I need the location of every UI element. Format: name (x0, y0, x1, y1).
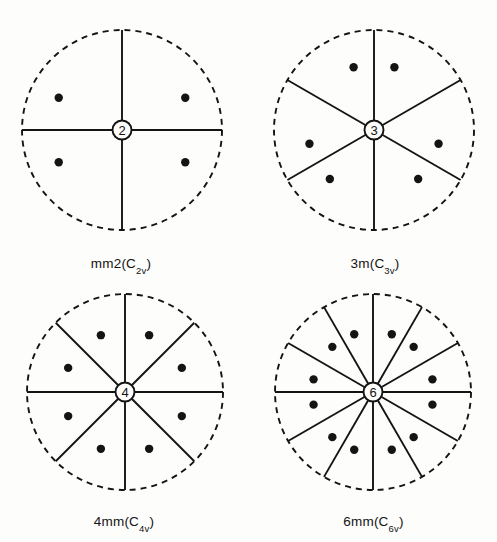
pole-dot (328, 433, 336, 441)
rotation-order-label: 6 (369, 385, 376, 400)
mirror-trace (287, 130, 374, 180)
pole-dot (428, 375, 436, 383)
schoenflies-subscript: 2v (136, 265, 146, 276)
pole-dot (387, 330, 395, 338)
hermann-mauguin-symbol: mm2 (91, 256, 122, 271)
pole-dot (97, 445, 105, 453)
pole-dot (434, 140, 442, 148)
pole-dot (181, 94, 189, 102)
pole-dot (428, 400, 436, 408)
pole-dot (409, 343, 417, 351)
pole-dot (309, 375, 317, 383)
pole-dot (64, 412, 72, 420)
schoenflies-symbol: C (374, 256, 384, 271)
panel-label-mm2: mm2(C2v) (91, 256, 151, 271)
mirror-trace (287, 80, 374, 130)
mirror-trace (125, 323, 194, 392)
pole-dot (328, 343, 336, 351)
stereogram-mm2: 2 (13, 21, 231, 239)
pole-dot (309, 400, 317, 408)
pole-dot (145, 445, 153, 453)
diagram-4mm: 4 (18, 285, 232, 499)
pole-dot (349, 63, 357, 71)
schoenflies-subscript: 4v (139, 523, 149, 534)
diagram-6mm: 6 (266, 285, 480, 499)
stereogram-3m: 3 (265, 21, 483, 239)
diagram-mm2: 2 (13, 21, 231, 239)
paren-close: ) (150, 514, 155, 529)
diagram-3m: 3 (265, 21, 483, 239)
stereogram-figure: 2mm2(C2v)33m(C3v)44mm(C4v)66mm(C6v) (0, 0, 497, 542)
pole-dot (181, 158, 189, 166)
hermann-mauguin-symbol: 3m (351, 256, 370, 271)
pole-dot (409, 433, 417, 441)
pole-dot (55, 94, 63, 102)
panel-label-4mm: 4mm(C4v) (94, 514, 154, 529)
rotation-order-label: 3 (370, 123, 377, 138)
pole-dot (350, 330, 358, 338)
pole-dot (326, 175, 334, 183)
hermann-mauguin-symbol: 6mm (343, 514, 374, 529)
rotation-order-label: 2 (118, 123, 125, 138)
schoenflies-symbol: C (379, 514, 389, 529)
mirror-trace (374, 80, 461, 130)
mirror-trace (56, 392, 125, 461)
paren-close: ) (399, 514, 404, 529)
panel-4mm: 44mm(C4v) (0, 280, 250, 542)
stereogram-6mm: 6 (266, 285, 480, 499)
panel-3m: 33m(C3v) (250, 0, 497, 280)
schoenflies-subscript: 3v (384, 265, 394, 276)
schoenflies-symbol: C (126, 256, 136, 271)
panel-mm2: 2mm2(C2v) (0, 0, 250, 280)
pole-dot (64, 364, 72, 372)
mirror-trace (374, 130, 461, 180)
panel-label-3m: 3m(C3v) (351, 256, 400, 271)
panel-label-6mm: 6mm(C6v) (343, 514, 403, 529)
pole-dot (178, 364, 186, 372)
pole-dot (55, 158, 63, 166)
schoenflies-subscript: 6v (389, 523, 399, 534)
paren-close: ) (395, 256, 400, 271)
mirror-trace (125, 392, 194, 461)
schoenflies-symbol: C (129, 514, 139, 529)
panel-6mm: 66mm(C6v) (250, 280, 497, 542)
mirror-trace (56, 323, 125, 392)
pole-dot (178, 412, 186, 420)
pole-dot (305, 140, 313, 148)
stereogram-4mm: 4 (18, 285, 232, 499)
pole-dot (390, 63, 398, 71)
pole-dot (350, 446, 358, 454)
rotation-order-label: 4 (121, 385, 128, 400)
pole-dot (387, 446, 395, 454)
pole-dot (414, 175, 422, 183)
pole-dot (97, 331, 105, 339)
paren-close: ) (147, 256, 152, 271)
pole-dot (145, 331, 153, 339)
hermann-mauguin-symbol: 4mm (94, 514, 125, 529)
